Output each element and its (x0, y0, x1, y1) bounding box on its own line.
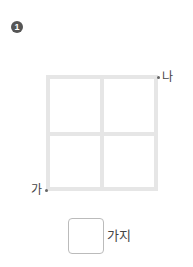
grid-line-middle-vertical (100, 75, 104, 191)
answer-input-box[interactable] (68, 218, 104, 254)
problem-number-badge: 1 (11, 21, 23, 33)
start-point-label: 가 (31, 183, 42, 197)
end-point-dot (157, 76, 160, 79)
grid-line-left (46, 75, 50, 191)
end-point-label: 나 (162, 70, 173, 84)
grid-line-right (154, 75, 158, 191)
path-grid-figure (46, 75, 158, 191)
answer-unit-label: 가지 (107, 228, 131, 244)
start-point-dot (45, 189, 48, 192)
